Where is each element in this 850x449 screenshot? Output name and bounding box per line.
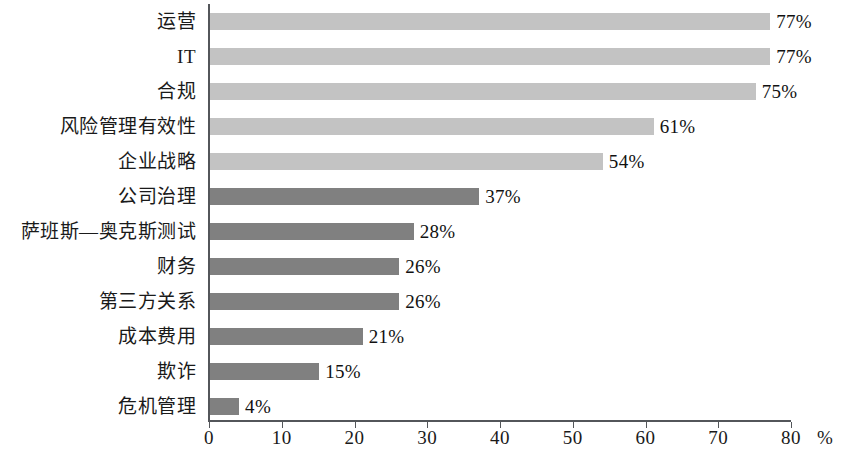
bar bbox=[210, 48, 770, 65]
bar-row: 危机管理4% bbox=[0, 389, 850, 424]
category-label: 萨班斯—奥克斯测试 bbox=[0, 214, 196, 249]
bar-value-label: 75% bbox=[762, 74, 798, 109]
x-axis-tick-label: 60 bbox=[636, 427, 656, 449]
bar bbox=[210, 398, 239, 415]
bar-value-label: 15% bbox=[325, 354, 361, 389]
bar bbox=[210, 118, 654, 135]
bar bbox=[210, 83, 756, 100]
bar-chart: 运营77%IT77%合规75%风险管理有效性61%企业战略54%公司治理37%萨… bbox=[0, 0, 850, 449]
bar bbox=[210, 188, 479, 205]
x-axis-unit-label: % bbox=[817, 427, 833, 449]
bar bbox=[210, 13, 770, 30]
bar bbox=[210, 328, 363, 345]
bar-value-label: 54% bbox=[609, 144, 645, 179]
bar-row: 财务26% bbox=[0, 249, 850, 284]
bar-row: 运营77% bbox=[0, 4, 850, 39]
category-label: 危机管理 bbox=[0, 389, 196, 424]
x-axis-tick-label: 70 bbox=[708, 427, 728, 449]
bar-row: 企业战略54% bbox=[0, 144, 850, 179]
bar-value-label: 37% bbox=[485, 179, 521, 214]
bar bbox=[210, 293, 399, 310]
x-axis-tick-label: 30 bbox=[417, 427, 437, 449]
bar-row: 公司治理37% bbox=[0, 179, 850, 214]
category-label: 合规 bbox=[0, 74, 196, 109]
bar-row: 萨班斯—奥克斯测试28% bbox=[0, 214, 850, 249]
bar-value-label: 77% bbox=[776, 39, 812, 74]
bar bbox=[210, 363, 319, 380]
x-axis-tick-label: 50 bbox=[563, 427, 583, 449]
category-label: 公司治理 bbox=[0, 179, 196, 214]
category-label: 财务 bbox=[0, 249, 196, 284]
x-axis-tick-label: 0 bbox=[204, 427, 214, 449]
bar-value-label: 4% bbox=[245, 389, 271, 424]
bar-value-label: 21% bbox=[369, 319, 405, 354]
bar-value-label: 26% bbox=[405, 284, 441, 319]
category-label: IT bbox=[0, 39, 196, 74]
bar-value-label: 28% bbox=[420, 214, 456, 249]
x-axis-tick-label: 80 bbox=[781, 427, 801, 449]
x-axis-tick-label: 10 bbox=[272, 427, 292, 449]
bar-value-label: 61% bbox=[660, 109, 696, 144]
category-label: 运营 bbox=[0, 4, 196, 39]
bar bbox=[210, 153, 603, 170]
bar bbox=[210, 223, 414, 240]
category-label: 风险管理有效性 bbox=[0, 109, 196, 144]
bar-row: 第三方关系26% bbox=[0, 284, 850, 319]
bar-row: 欺诈15% bbox=[0, 354, 850, 389]
bar-row: 风险管理有效性61% bbox=[0, 109, 850, 144]
x-axis-tick-label: 20 bbox=[345, 427, 365, 449]
bar-row: 成本费用21% bbox=[0, 319, 850, 354]
bar-row: 合规75% bbox=[0, 74, 850, 109]
category-label: 欺诈 bbox=[0, 354, 196, 389]
category-label: 成本费用 bbox=[0, 319, 196, 354]
category-label: 第三方关系 bbox=[0, 284, 196, 319]
x-axis-tick-label: 40 bbox=[490, 427, 510, 449]
bar-value-label: 77% bbox=[776, 4, 812, 39]
bar bbox=[210, 258, 399, 275]
bar-value-label: 26% bbox=[405, 249, 441, 284]
category-label: 企业战略 bbox=[0, 144, 196, 179]
bar-row: IT77% bbox=[0, 39, 850, 74]
